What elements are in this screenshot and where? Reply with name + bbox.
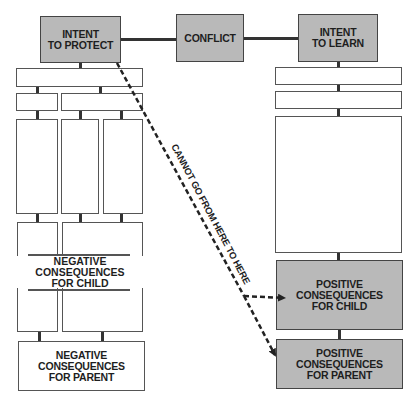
dashed-line-main (117, 63, 244, 296)
arrow-to-positive-parent (244, 296, 275, 355)
arrow-to-positive-child (244, 296, 284, 298)
